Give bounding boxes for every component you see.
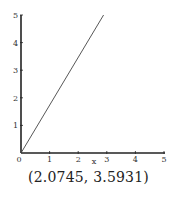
series-line xyxy=(21,15,104,153)
data-series xyxy=(21,15,104,153)
axes xyxy=(21,15,165,153)
x-tick-label: 2 xyxy=(76,155,81,164)
y-tick-label: 1 xyxy=(13,121,18,130)
y-tick-label: 4 xyxy=(13,39,18,48)
coordinate-caption: (2.0745, 3.5931) xyxy=(0,169,177,185)
chart-plot-area: 01234512345 x xyxy=(0,0,177,165)
y-tick-label: 2 xyxy=(13,94,18,103)
x-tick-label: 4 xyxy=(133,155,138,164)
y-tick-label: 5 xyxy=(13,11,18,20)
tick-labels: 01234512345 xyxy=(13,11,167,164)
x-tick-label: 3 xyxy=(104,155,109,164)
x-tick-label: 0 xyxy=(16,155,21,164)
x-axis-label: x xyxy=(92,157,97,165)
tick-marks xyxy=(20,15,164,154)
x-tick-label: 5 xyxy=(161,155,166,164)
y-tick-label: 3 xyxy=(13,66,18,75)
x-tick-label: 1 xyxy=(47,155,52,164)
